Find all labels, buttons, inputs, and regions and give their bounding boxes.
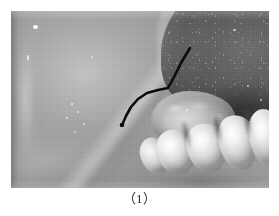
photograph-vignette — [11, 11, 269, 188]
figure-container: （1） — [0, 0, 279, 216]
clinical-photograph — [11, 11, 269, 188]
figure-caption: （1） — [0, 190, 279, 208]
photograph-canvas — [11, 11, 269, 188]
